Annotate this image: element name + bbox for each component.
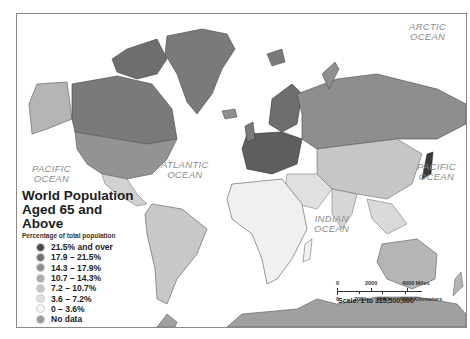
scale-tick: [382, 291, 383, 294]
legend-swatch-icon: [36, 294, 45, 303]
legend-swatch-icon: [36, 284, 45, 293]
legend: World Population Aged 65 and Above Perce…: [22, 189, 142, 324]
legend-item: 7.2 – 10.7%: [36, 283, 142, 293]
legend-item: 3.6 – 7.2%: [36, 293, 142, 303]
scale-tick: [371, 288, 372, 291]
antarctica-west: [157, 314, 177, 327]
madagascar: [303, 239, 312, 262]
indian-ocean-label: INDIAN OCEAN: [314, 214, 349, 234]
legend-swatch-icon: [36, 263, 45, 272]
legend-swatch-icon: [36, 253, 45, 262]
legend-swatch-icon: [36, 243, 45, 252]
scale-tick: [407, 288, 408, 291]
alaska: [29, 82, 72, 134]
legend-item: 0 – 3.6%: [36, 304, 142, 314]
legend-item: 14.3 – 17.9%: [36, 263, 142, 273]
pacific-ocean-east-label: PACIFIC OCEAN: [417, 162, 456, 182]
scale-tick: [337, 288, 338, 295]
legend-swatch-icon: [36, 315, 45, 324]
legend-swatch-icon: [36, 274, 45, 283]
map-frame: ARCTIC OCEAN PACIFIC OCEAN PACIFIC OCEAN…: [16, 13, 467, 328]
miles-tick-label: 4000 Miles: [402, 280, 430, 286]
legend-item: No data: [36, 314, 142, 324]
miles-tick-label: 0: [336, 280, 339, 286]
scale-line: [337, 291, 422, 292]
scale-ratio: Scale: 1 to 315,500,000: [338, 297, 414, 304]
pacific-ocean-west-label: PACIFIC OCEAN: [32, 164, 71, 184]
legend-item: 10.7 – 14.3%: [36, 273, 142, 283]
svalbard: [267, 49, 285, 66]
atlantic-ocean-label: ATLANTIC OCEAN: [161, 160, 209, 180]
canada-islands: [112, 39, 167, 79]
uk: [245, 122, 255, 142]
legend-title-line1: World Population: [22, 189, 142, 203]
legend-item: 17.9 – 21.5%: [36, 252, 142, 262]
legend-title-line2: Aged 65 and Above: [22, 203, 142, 231]
scandinavia: [269, 84, 302, 132]
canada: [72, 76, 177, 144]
iceland: [222, 109, 237, 119]
greenland: [165, 29, 235, 114]
scale-tick: [405, 291, 406, 294]
legend-swatch-icon: [36, 304, 45, 313]
se-asia: [367, 199, 407, 234]
scale-tick: [359, 291, 360, 294]
russia: [297, 74, 466, 149]
miles-tick-label: 2000: [365, 280, 377, 286]
arctic-ocean-label: ARCTIC OCEAN: [409, 22, 446, 42]
legend-item: 21.5% and over: [36, 242, 142, 252]
south-america: [145, 204, 207, 304]
legend-subtitle: Percentage of total population: [22, 232, 142, 239]
